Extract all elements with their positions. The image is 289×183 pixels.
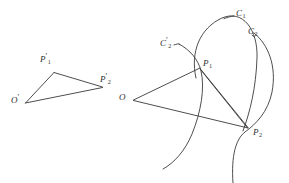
subscript-P2-prime: 2 [108, 78, 111, 85]
subscript-C1: 1 [242, 12, 245, 19]
vertex-label-P1-prime: P′1 [40, 55, 51, 64]
vertex-label-O: O [119, 93, 126, 102]
left-triangle-group [26, 73, 103, 104]
curve-C2-prime [163, 44, 203, 169]
vertex-label-P2-prime: P′2 [100, 75, 111, 84]
segment-O-P1 [134, 68, 201, 100]
vertex-label-O-prime: O′ [11, 96, 20, 105]
figure-canvas [0, 0, 289, 183]
curve-label-C1: C1 [236, 9, 246, 18]
subscript-P1: 1 [209, 62, 212, 69]
leader-line-C2-prime [174, 44, 180, 45]
curve-label-C2-prime: C′2 [160, 39, 171, 48]
curve-C2 [233, 33, 274, 183]
geometry-figure: O′ P′1 P′2 O P1 P2 C1 C2 C′2 [0, 0, 289, 183]
segment-P1-P2-secondary [201, 70, 248, 129]
subscript-P2: 2 [259, 131, 262, 138]
segment-O-P2 [134, 101, 249, 129]
vertex-label-P2: P2 [253, 128, 262, 137]
right-triangle-group [134, 68, 249, 128]
curve-label-C2: C2 [248, 27, 258, 36]
vertex-label-P1: P1 [203, 59, 212, 68]
segment-P1prime-P2prime [54, 73, 103, 88]
subscript-C2-prime: 2 [168, 42, 171, 49]
segment-Oprime-P2prime [26, 88, 103, 104]
subscript-C2: 2 [254, 30, 257, 37]
subscript-P1-prime: 1 [48, 58, 51, 65]
